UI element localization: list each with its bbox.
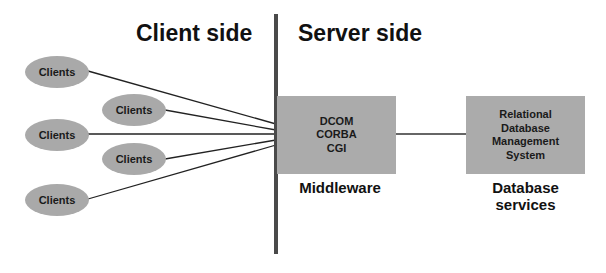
client-node-1: Clients bbox=[25, 56, 89, 88]
client-label: Clients bbox=[39, 194, 76, 206]
client-side-heading: Client side bbox=[136, 20, 252, 47]
database-line: System bbox=[506, 149, 545, 163]
database-caption-line2: services bbox=[466, 196, 585, 213]
server-side-heading: Server side bbox=[298, 20, 422, 47]
middleware-item: DCOM bbox=[320, 115, 354, 129]
middleware-item: CGI bbox=[327, 142, 347, 156]
database-caption-line1: Database bbox=[466, 179, 585, 196]
database-line: Database bbox=[501, 122, 550, 136]
client-label: Clients bbox=[116, 153, 153, 165]
client-label: Clients bbox=[39, 129, 76, 141]
middleware-item: CORBA bbox=[316, 128, 356, 142]
database-line: Management bbox=[492, 135, 559, 149]
middleware-caption: Middleware bbox=[290, 179, 390, 196]
database-caption: Database services bbox=[466, 179, 585, 213]
client-node-3: Clients bbox=[25, 119, 89, 151]
client-node-5: Clients bbox=[25, 184, 89, 216]
middleware-box: DCOM CORBA CGI bbox=[277, 96, 396, 174]
client-node-2: Clients bbox=[102, 94, 166, 126]
database-box: Relational Database Management System bbox=[466, 96, 585, 174]
database-line: Relational bbox=[499, 108, 552, 122]
client-label: Clients bbox=[116, 104, 153, 116]
client-label: Clients bbox=[39, 66, 76, 78]
connector-client-2 bbox=[165, 110, 276, 130]
client-node-4: Clients bbox=[102, 143, 166, 175]
